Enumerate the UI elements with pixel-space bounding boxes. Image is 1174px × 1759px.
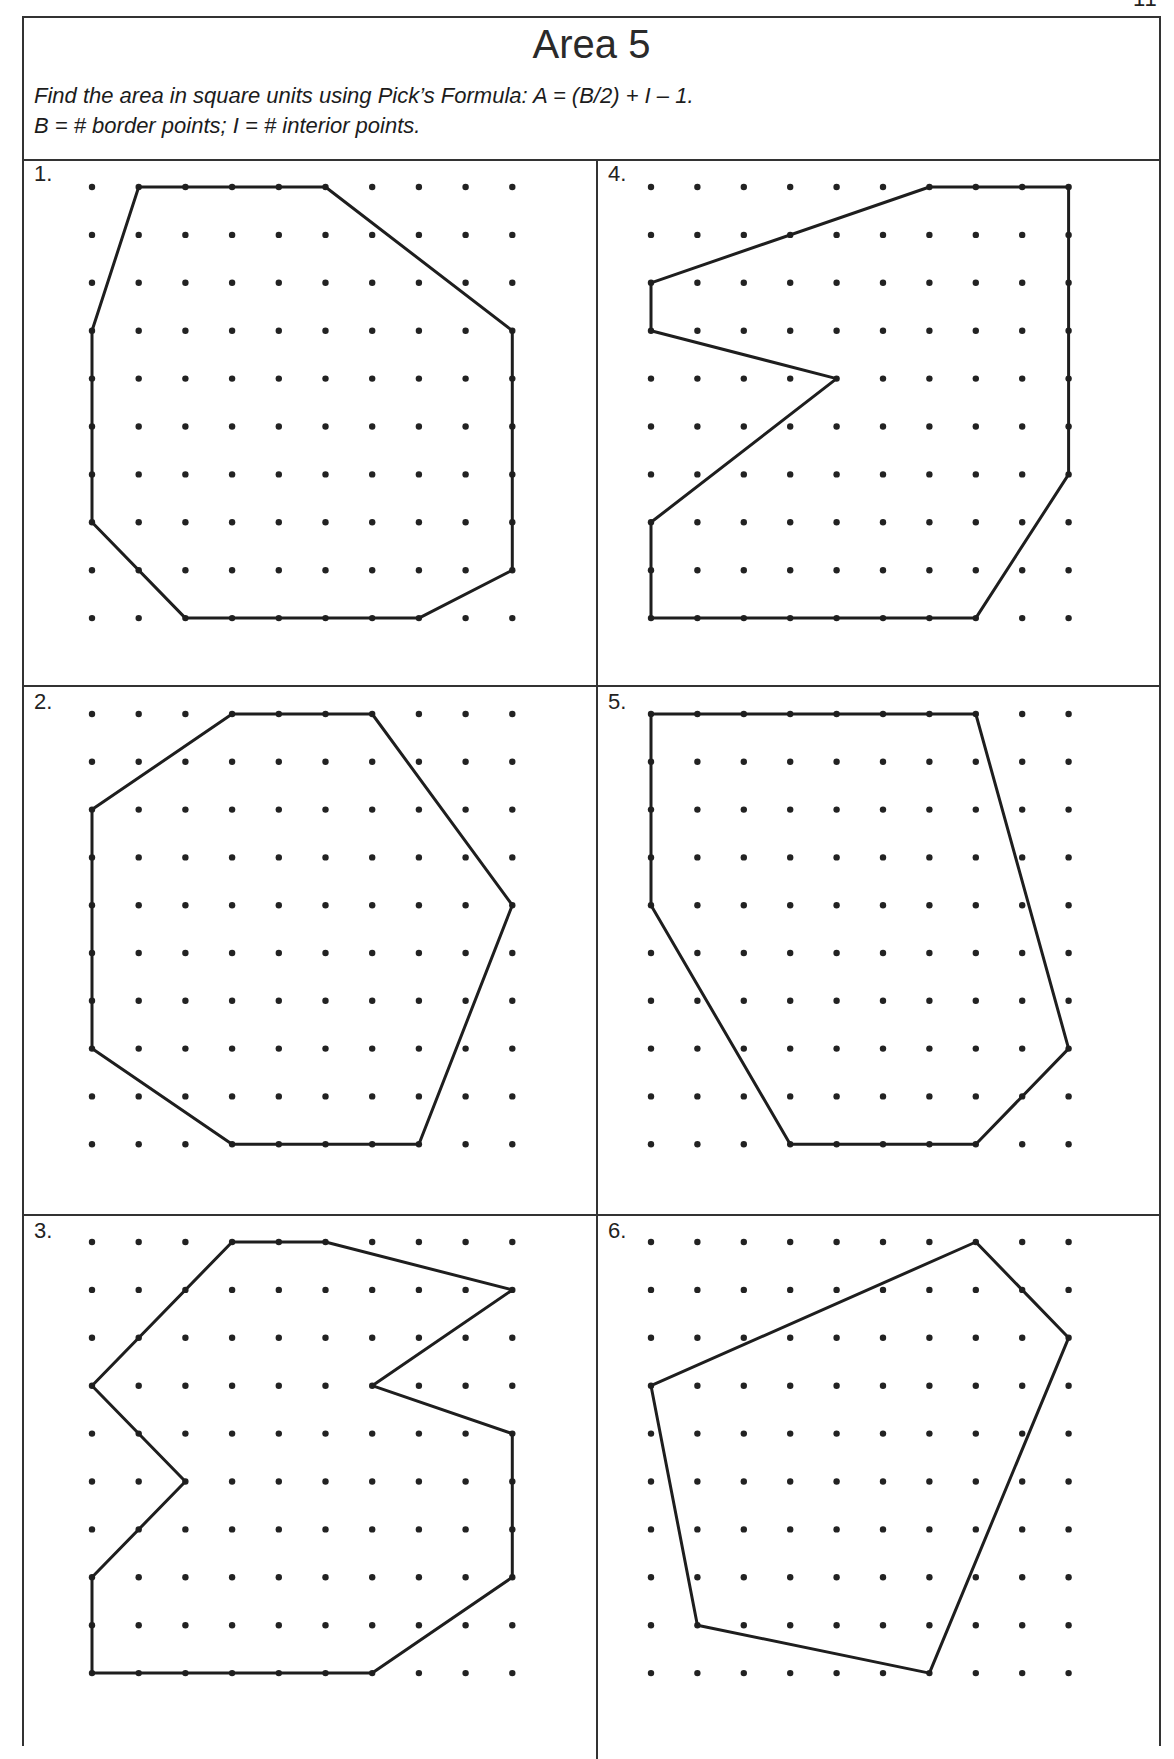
grid-dot <box>229 328 235 334</box>
grid-dot <box>136 1239 142 1245</box>
grid-dot <box>509 1670 515 1676</box>
grid-dot <box>787 998 793 1004</box>
grid-dot <box>787 519 793 525</box>
grid-dot <box>1019 1335 1025 1341</box>
grid-dot <box>416 1670 422 1676</box>
grid-dot <box>973 854 979 860</box>
grid-dot <box>926 423 932 429</box>
worksheet-header: Area 5 Find the area in square units usi… <box>24 18 1159 161</box>
grid-dot <box>1065 759 1071 765</box>
grid-dot <box>416 806 422 812</box>
grid-dot <box>694 1045 700 1051</box>
grid-dot <box>182 1045 188 1051</box>
grid-dot <box>1065 1526 1071 1532</box>
grid-dot <box>694 471 700 477</box>
grid-dot <box>880 1045 886 1051</box>
grid-dot <box>89 184 95 190</box>
grid-dot <box>369 998 375 1004</box>
grid-dot <box>229 567 235 573</box>
grid-dot <box>926 759 932 765</box>
grid-dot <box>462 184 468 190</box>
grid-dot <box>416 1383 422 1389</box>
grid-dot <box>833 759 839 765</box>
grid-dot <box>694 1093 700 1099</box>
grid-dot <box>787 950 793 956</box>
grid-dot <box>741 1093 747 1099</box>
grid-dot <box>926 567 932 573</box>
grid-dot <box>322 328 328 334</box>
grid-dot <box>880 902 886 908</box>
grid-dot <box>276 1287 282 1293</box>
grid-dot <box>229 1045 235 1051</box>
grid-dot <box>182 328 188 334</box>
grid-dot <box>416 759 422 765</box>
grid-dot <box>880 375 886 381</box>
grid-dot <box>880 1622 886 1628</box>
grid-dot <box>1065 950 1071 956</box>
grid-dot <box>833 184 839 190</box>
grid-dot <box>136 998 142 1004</box>
grid-dot <box>182 1093 188 1099</box>
grid-dot <box>1065 1430 1071 1436</box>
grid-dot <box>89 232 95 238</box>
grid-dot <box>880 759 886 765</box>
grid-dot <box>880 998 886 1004</box>
grid-dot <box>229 280 235 286</box>
grid-dot <box>322 1335 328 1341</box>
grid-dot <box>741 328 747 334</box>
grid-dot <box>926 1574 932 1580</box>
grid-dot <box>926 519 932 525</box>
grid-dot <box>973 280 979 286</box>
grid-dot <box>926 232 932 238</box>
grid-dot <box>1065 806 1071 812</box>
lattice-polygon <box>92 1242 512 1673</box>
grid-dot <box>416 1526 422 1532</box>
grid-dot <box>648 1670 654 1676</box>
grid-dot <box>741 471 747 477</box>
grid-dot <box>509 1622 515 1628</box>
grid-dot <box>741 854 747 860</box>
grid-dot <box>509 1335 515 1341</box>
grid-dot <box>833 1622 839 1628</box>
grid-dot <box>787 423 793 429</box>
grid-dot <box>416 567 422 573</box>
grid-dot <box>509 232 515 238</box>
grid-dot <box>369 567 375 573</box>
grid-dot <box>1065 1239 1071 1245</box>
grid-dot <box>880 1287 886 1293</box>
grid-dot <box>276 1574 282 1580</box>
grid-dot <box>369 1622 375 1628</box>
grid-dot <box>648 1622 654 1628</box>
grid-dot <box>229 950 235 956</box>
grid-dot <box>182 1430 188 1436</box>
grid-dot <box>787 902 793 908</box>
grid-dot <box>462 423 468 429</box>
grid-dot <box>276 567 282 573</box>
grid-dot <box>833 232 839 238</box>
grid-dot <box>416 423 422 429</box>
grid-dot <box>880 328 886 334</box>
grid-dot <box>182 1239 188 1245</box>
grid-dot <box>1019 375 1025 381</box>
grid-dot <box>229 806 235 812</box>
grid-dot <box>89 1478 95 1484</box>
grid-dot <box>833 1239 839 1245</box>
grid-dot <box>416 328 422 334</box>
grid-dot <box>182 950 188 956</box>
grid-dot <box>1019 328 1025 334</box>
grid-dot <box>694 1574 700 1580</box>
grid-dot <box>136 711 142 717</box>
grid-dot <box>369 1287 375 1293</box>
grid-dot <box>926 1045 932 1051</box>
grid-dot <box>322 519 328 525</box>
grid-dot <box>462 471 468 477</box>
grid-dot <box>369 1045 375 1051</box>
grid-dot <box>973 1478 979 1484</box>
grid-dot <box>694 1526 700 1532</box>
grid-dot <box>369 1430 375 1436</box>
grid-dot <box>369 1526 375 1532</box>
grid-dot <box>973 423 979 429</box>
grid-dot <box>833 1478 839 1484</box>
grid-dot <box>1065 567 1071 573</box>
grid-dot <box>322 1093 328 1099</box>
